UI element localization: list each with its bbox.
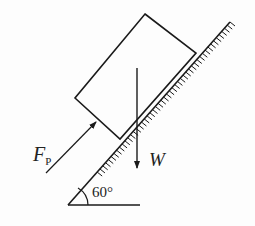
angle-arc [78,188,88,205]
diagram-canvas: /* placeholder */ FP W 60° [0,0,255,226]
angle-label: 60° [92,184,113,201]
force-p-arrow [46,122,96,173]
block [75,14,196,139]
weight-label: W [149,149,165,171]
force-p-label: FP [33,143,51,166]
incline-figure: /* placeholder */ [0,0,255,226]
